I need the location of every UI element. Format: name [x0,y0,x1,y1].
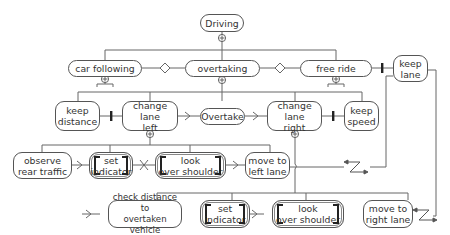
task-label: Overtake [201,111,243,122]
task-set-indicator-left[interactable]: set indicator [89,152,133,179]
task-driving[interactable]: Driving [200,14,244,32]
task-label: check distance to overtaken vehicle [109,192,181,235]
task-look-over-shoulder-right[interactable]: look over shoulder [272,200,344,228]
task-keep-lane[interactable]: keep lane [393,55,428,82]
iteration-bracket-icon [239,204,245,224]
task-label: change lane right [268,100,321,133]
task-label: move to right lane [366,203,411,225]
task-label: change lane left [123,100,177,133]
task-observe-rear-traffic[interactable]: observe rear traffic [13,152,72,179]
task-label: free ride [316,63,355,74]
task-overtake[interactable]: Overtake [200,108,245,125]
task-keep-distance[interactable]: keep distance [55,101,100,131]
task-car-following[interactable]: car following [68,60,142,77]
task-label: keep lane [399,58,421,80]
task-move-to-right-lane[interactable]: move to right lane [363,200,413,228]
task-label: observe rear traffic [18,155,67,177]
task-label: look over shoulder [158,155,222,177]
task-label: look over shoulder [276,203,340,225]
iteration-bracket-icon [215,156,221,175]
task-overtaking[interactable]: overtaking [185,60,260,77]
task-change-lane-right[interactable]: change lane right [267,101,322,131]
task-label: overtaking [198,63,248,74]
task-label: keep distance [58,105,97,127]
iteration-bracket-icon [122,156,128,175]
task-move-to-left-lane[interactable]: move to left lane [245,152,290,179]
task-label: keep speed [347,105,375,127]
task-label: Driving [205,18,238,29]
task-label: car following [75,63,134,74]
iteration-bracket-icon [333,204,339,224]
task-keep-speed[interactable]: keep speed [344,101,379,131]
task-look-over-shoulder-left[interactable]: look over shoulder [155,152,226,179]
task-model-diagram: Driving car following overtaking free ri… [0,0,450,235]
task-change-lane-left[interactable]: change lane left [122,101,178,131]
task-label: move to left lane [248,155,286,177]
task-free-ride[interactable]: free ride [300,60,372,77]
task-check-distance[interactable]: check distance to overtaken vehicle [108,200,182,228]
task-set-indicator-right[interactable]: set indicator [200,200,250,228]
